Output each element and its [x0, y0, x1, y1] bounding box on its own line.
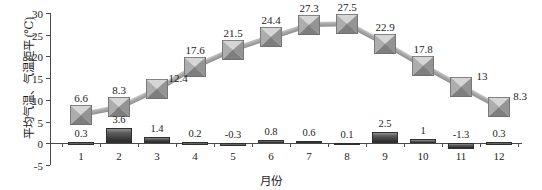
line-value-label: 27.5 — [337, 1, 356, 13]
line-value-label: 12.4 — [168, 72, 187, 84]
x-tick-label: 1 — [78, 150, 84, 162]
bar-value-label: 3.6 — [112, 114, 125, 125]
y-tick-label: 15 — [32, 73, 43, 85]
y-tick-label: 0 — [38, 138, 44, 150]
line-marker — [412, 56, 434, 76]
line-value-label: 17.6 — [185, 44, 204, 56]
bar — [258, 140, 284, 143]
bar — [334, 143, 360, 146]
x-tick-label: 5 — [230, 150, 236, 162]
line-value-label: 21.5 — [223, 27, 242, 39]
line-value-label: 27.3 — [299, 2, 318, 14]
x-tick-label: 8 — [344, 150, 350, 162]
y-tick: 25 — [46, 35, 50, 36]
y-tick: 30 — [46, 13, 50, 14]
y-tick-label: 30 — [32, 8, 43, 20]
x-tick — [62, 143, 63, 147]
x-tick-label: 3 — [154, 150, 160, 162]
y-tick-label: 5 — [38, 116, 44, 128]
bar — [486, 142, 512, 145]
bar — [220, 143, 246, 146]
x-tick — [214, 143, 215, 147]
bar — [106, 128, 132, 144]
bar — [372, 132, 398, 143]
line-value-label: 6.6 — [74, 92, 88, 104]
line-value-label: 13 — [477, 70, 488, 82]
bar — [410, 139, 436, 143]
bar — [68, 142, 94, 145]
x-tick — [290, 143, 291, 147]
bar-value-label: 0.3 — [492, 128, 505, 139]
x-tick-label: 9 — [382, 150, 388, 162]
x-tick — [100, 143, 101, 147]
x-tick — [404, 143, 405, 147]
bar-value-label: 0.2 — [188, 128, 201, 139]
x-tick — [366, 143, 367, 147]
x-tick-label: 4 — [192, 150, 198, 162]
line-value-label: 17.8 — [413, 43, 432, 55]
line-value-label: 8.3 — [513, 90, 527, 102]
line-marker — [450, 77, 472, 97]
x-tick-label: 12 — [494, 150, 505, 162]
x-tick — [328, 143, 329, 147]
bar-value-label: 0.6 — [302, 127, 315, 138]
y-tick: 20 — [46, 56, 50, 57]
line-value-label: 8.3 — [112, 84, 126, 96]
line-marker — [336, 14, 358, 34]
line-value-label: 22.9 — [375, 21, 394, 33]
bar-value-label: 2.5 — [378, 118, 391, 129]
x-tick — [252, 143, 253, 147]
bar-value-label: 1.4 — [150, 123, 163, 134]
y-tick-label: -5 — [34, 160, 43, 172]
y-axis-line — [50, 13, 51, 165]
line-marker — [488, 97, 510, 117]
line-marker — [70, 105, 92, 125]
y-tick: 15 — [46, 78, 50, 79]
x-axis-label: 月份 — [0, 172, 542, 188]
y-tick: 5 — [46, 122, 50, 123]
line-marker — [374, 34, 396, 54]
x-tick — [480, 143, 481, 147]
line-marker — [222, 40, 244, 60]
line-marker — [260, 27, 282, 47]
x-tick-label: 2 — [116, 150, 122, 162]
bar-value-label: 0.8 — [264, 126, 277, 137]
x-tick — [138, 143, 139, 147]
x-tick — [176, 143, 177, 147]
x-tick-label: 10 — [418, 150, 429, 162]
bar-value-label: 0.3 — [74, 128, 87, 139]
x-tick — [518, 143, 519, 147]
bar-value-label: 0.1 — [340, 129, 353, 140]
y-tick: 10 — [46, 100, 50, 101]
line-marker — [146, 79, 168, 99]
bar-value-label: -1.3 — [453, 129, 470, 140]
bar — [448, 143, 474, 149]
x-tick-label: 6 — [268, 150, 274, 162]
bar-value-label: -0.3 — [225, 129, 242, 140]
y-tick-label: 20 — [32, 51, 43, 63]
bar — [182, 142, 208, 145]
temperature-chart: 平均气温、气温距平 (℃) 月份 302520151050-5 12345678… — [0, 0, 542, 190]
plot-area: 302520151050-5 123456789101112 6.68.312.… — [50, 13, 522, 165]
x-tick — [442, 143, 443, 147]
x-tick-label: 11 — [456, 150, 467, 162]
y-tick-label: 25 — [32, 29, 43, 41]
line-marker — [298, 15, 320, 35]
line-value-label: 24.4 — [261, 14, 280, 26]
y-tick-label: 10 — [32, 95, 43, 107]
x-tick-label: 7 — [306, 150, 312, 162]
bar — [144, 137, 170, 143]
y-tick: -5 — [46, 165, 50, 166]
bar-value-label: 1 — [420, 125, 425, 136]
bar — [296, 141, 322, 144]
